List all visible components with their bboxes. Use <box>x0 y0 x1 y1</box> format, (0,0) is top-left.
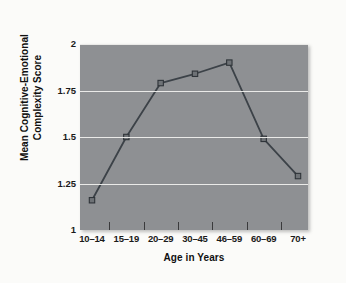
x-axis-tick-label: 10–14 <box>79 233 104 244</box>
data-point-marker <box>192 71 197 76</box>
y-axis-tick-label: 1.5 <box>63 132 76 142</box>
data-point-marker <box>227 60 232 65</box>
plot-area <box>80 44 308 230</box>
x-axis-tick-label: 46–59 <box>217 233 242 244</box>
x-axis-tick-label: 20–29 <box>148 233 173 244</box>
x-axis-tick-mark <box>247 222 248 230</box>
series-polyline <box>92 63 298 201</box>
x-axis-tick-labels: 10–1415–1920–2930–4546–5960–6970+ <box>80 233 308 247</box>
gridline <box>80 44 308 45</box>
data-point-marker <box>89 198 94 203</box>
x-axis-tick-mark <box>144 222 145 230</box>
gridline <box>80 91 308 92</box>
chart-figure: Mean Cognitive-Emotional Complexity Scor… <box>0 0 346 283</box>
x-axis-title: Age in Years <box>80 252 308 263</box>
x-axis-tick-label: 30–45 <box>182 233 207 244</box>
x-axis-tick-label: 60–69 <box>251 233 276 244</box>
y-axis-title: Mean Cognitive-Emotional Complexity Scor… <box>19 18 44 178</box>
gridline <box>80 184 308 185</box>
y-axis-title-line-2: Complexity Score <box>31 18 44 178</box>
data-point-marker <box>158 80 163 85</box>
gridline <box>80 137 308 138</box>
y-axis-tick-label: 1.75 <box>58 86 77 96</box>
y-axis-title-line-1: Mean Cognitive-Emotional <box>19 18 32 178</box>
x-axis-tick-label: 15–19 <box>114 233 139 244</box>
x-axis-tick-mark <box>212 222 213 230</box>
y-axis-tick-label: 1.25 <box>58 179 77 189</box>
x-axis-tick-label: 70+ <box>290 233 306 244</box>
y-axis-tick-labels: 11.251.51.752 <box>44 44 76 230</box>
x-axis-tick-mark <box>109 222 110 230</box>
data-point-marker <box>295 173 300 178</box>
x-axis-tick-mark <box>281 222 282 230</box>
x-axis-tick-mark <box>178 222 179 230</box>
y-axis-tick-label: 1 <box>71 225 76 235</box>
y-axis-tick-label: 2 <box>71 39 76 49</box>
